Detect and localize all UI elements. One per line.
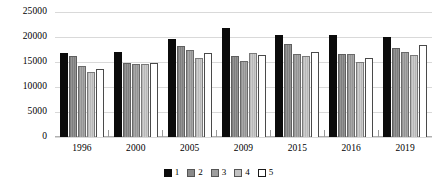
bar — [78, 66, 86, 138]
bar — [302, 56, 310, 138]
legend-label: 1 — [175, 168, 180, 177]
legend-label: 4 — [245, 168, 250, 177]
bar-group — [163, 12, 217, 137]
legend-swatch-icon — [187, 169, 195, 177]
bar — [311, 52, 319, 137]
bar — [329, 35, 337, 137]
bar — [96, 69, 104, 138]
legend-item-3[interactable]: 3 — [211, 168, 227, 177]
bar-group — [378, 12, 432, 137]
bar — [87, 72, 95, 138]
legend-item-1[interactable]: 1 — [164, 168, 180, 177]
bar-group — [217, 12, 271, 137]
bar — [177, 46, 185, 138]
x-tick-label: 2019 — [378, 142, 432, 158]
y-tick-label: 25000 — [0, 7, 47, 17]
bar — [195, 58, 203, 138]
y-tick-label: 5000 — [0, 107, 47, 117]
y-tick-label: 20000 — [0, 32, 47, 42]
bar-group — [324, 12, 378, 137]
bar — [392, 48, 400, 138]
y-tick-label: 15000 — [0, 57, 47, 67]
bar — [338, 54, 346, 138]
bar — [249, 53, 257, 137]
bar — [150, 63, 158, 137]
x-tick-label: 2016 — [324, 142, 378, 158]
y-tick-label: 0 — [0, 132, 47, 142]
chart-legend: 12345 — [0, 168, 437, 177]
legend-swatch-icon — [211, 169, 219, 177]
bar — [114, 52, 122, 137]
x-tick-label: 2000 — [109, 142, 163, 158]
bar-chart: 0500010000150002000025000 19962000200520… — [0, 0, 437, 190]
plot-area — [55, 12, 432, 137]
bar — [410, 55, 418, 137]
bar-group — [55, 12, 109, 137]
bar — [275, 35, 283, 138]
bar-groups — [55, 12, 432, 137]
y-axis: 0500010000150002000025000 — [0, 12, 55, 137]
bar — [347, 54, 355, 137]
bar-group — [109, 12, 163, 137]
bar — [356, 62, 364, 138]
bar — [69, 56, 77, 138]
bar — [240, 61, 248, 138]
bar — [383, 37, 391, 138]
legend-label: 3 — [222, 168, 227, 177]
bar — [401, 52, 409, 137]
bar — [222, 28, 230, 137]
bar — [204, 53, 212, 138]
x-tick-label: 1996 — [55, 142, 109, 158]
bar — [258, 55, 266, 137]
bar — [284, 44, 292, 138]
bar — [141, 64, 149, 137]
bar — [123, 63, 131, 137]
bar — [365, 58, 373, 137]
legend-item-5[interactable]: 5 — [258, 168, 274, 177]
bar — [186, 50, 194, 137]
legend-swatch-icon — [234, 169, 242, 177]
legend-swatch-icon — [164, 169, 172, 177]
legend-item-4[interactable]: 4 — [234, 168, 250, 177]
x-tick-label: 2009 — [217, 142, 271, 158]
gridline — [55, 137, 432, 138]
bar — [231, 56, 239, 137]
bar — [132, 64, 140, 138]
legend-label: 5 — [269, 168, 274, 177]
x-axis: 1996200020052009201520162019 — [55, 142, 432, 158]
legend-item-2[interactable]: 2 — [187, 168, 203, 177]
bar — [168, 39, 176, 138]
bar — [419, 45, 427, 137]
x-tick-label: 2015 — [270, 142, 324, 158]
bar-group — [270, 12, 324, 137]
legend-label: 2 — [198, 168, 203, 177]
bar — [60, 53, 68, 138]
x-tick-label: 2005 — [163, 142, 217, 158]
y-tick-label: 10000 — [0, 82, 47, 92]
legend-swatch-icon — [258, 169, 266, 177]
bar — [293, 54, 301, 137]
